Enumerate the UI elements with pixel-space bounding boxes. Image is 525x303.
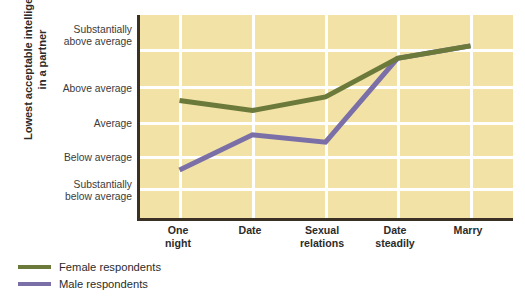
y-tick-line2: above average bbox=[64, 36, 132, 47]
x-tick-line2: relations bbox=[300, 237, 344, 249]
chart-figure: Lowest acceptable intelligence in a part… bbox=[0, 0, 525, 303]
x-tick-line1: Sexual bbox=[305, 224, 339, 236]
x-tick-line1: One bbox=[168, 224, 189, 236]
y-tick-line1: Below average bbox=[64, 152, 132, 163]
x-tick-label-marry: Marry bbox=[425, 224, 511, 237]
y-tick-line1: Substantially bbox=[74, 24, 132, 35]
legend-swatch-male bbox=[18, 282, 51, 286]
x-tick-line2: night bbox=[165, 237, 191, 249]
legend-swatch-female bbox=[18, 265, 51, 269]
plot-area bbox=[137, 15, 513, 221]
series-line-female bbox=[180, 46, 471, 111]
legend-item-female: Female respondents bbox=[18, 258, 268, 275]
y-tick-label-substantially-below-average: Substantially below average bbox=[52, 179, 132, 202]
x-axis-tick-labels: One night Date Sexual relations Date ste… bbox=[137, 224, 510, 260]
data-lines bbox=[140, 15, 513, 218]
y-tick-label-below-average: Below average bbox=[52, 152, 132, 164]
plot-inner bbox=[140, 15, 513, 218]
x-tick-line1: Date bbox=[239, 224, 262, 236]
x-tick-line1: Marry bbox=[454, 224, 483, 236]
x-tick-line1: Date bbox=[384, 224, 407, 236]
y-axis-tick-labels: Substantially above average Above averag… bbox=[52, 0, 132, 225]
y-tick-line2: below average bbox=[65, 191, 132, 202]
y-tick-label-substantially-above-average: Substantially above average bbox=[52, 24, 132, 47]
y-axis-title: Lowest acceptable intelligence in a part… bbox=[22, 0, 49, 155]
y-axis-title-line2: in a partner bbox=[35, 30, 47, 90]
legend-label-male: Male respondents bbox=[59, 278, 148, 290]
x-tick-line2: steadily bbox=[375, 237, 414, 249]
y-tick-line1: Substantially bbox=[74, 179, 132, 190]
y-tick-label-above-average: Above average bbox=[52, 83, 132, 95]
y-tick-line1: Average bbox=[94, 118, 132, 129]
chart-legend: Female respondents Male respondents bbox=[18, 258, 268, 292]
y-tick-line1: Above average bbox=[63, 83, 132, 94]
legend-label-female: Female respondents bbox=[59, 261, 161, 273]
y-tick-label-average: Average bbox=[52, 118, 132, 130]
y-axis-title-line1: Lowest acceptable intelligence bbox=[22, 0, 34, 140]
legend-item-male: Male respondents bbox=[18, 275, 268, 292]
